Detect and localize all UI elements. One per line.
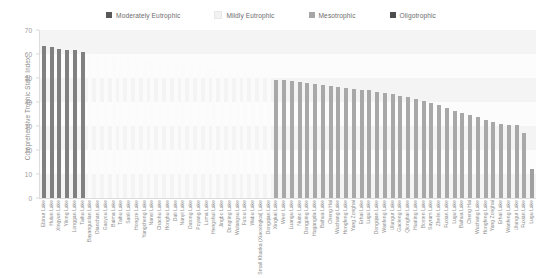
bar-cell[interactable] — [296, 30, 304, 198]
bar-cell[interactable] — [257, 30, 265, 198]
bar-cell[interactable] — [304, 30, 312, 198]
bar-cell[interactable] — [366, 30, 374, 198]
bar-cell[interactable] — [133, 30, 141, 198]
bar[interactable] — [468, 115, 472, 198]
bar[interactable] — [530, 169, 534, 198]
bar-cell[interactable] — [218, 30, 226, 198]
bar-cell[interactable] — [451, 30, 459, 198]
bar[interactable] — [267, 75, 271, 198]
bar-cell[interactable] — [311, 30, 319, 198]
bar[interactable] — [406, 97, 410, 198]
bar[interactable] — [453, 111, 457, 198]
bar-cell[interactable] — [358, 30, 366, 198]
bar-cell[interactable] — [234, 30, 242, 198]
bar-cell[interactable] — [397, 30, 405, 198]
bar[interactable] — [212, 68, 216, 198]
bar-cell[interactable] — [164, 30, 172, 198]
bar-cell[interactable] — [505, 30, 513, 198]
bar[interactable] — [42, 46, 46, 198]
bar[interactable] — [391, 94, 395, 198]
bar[interactable] — [181, 65, 185, 198]
bar[interactable] — [398, 96, 402, 198]
bar-cell[interactable] — [94, 30, 102, 198]
bar-cell[interactable] — [420, 30, 428, 198]
bar-cell[interactable] — [521, 30, 529, 198]
bar[interactable] — [274, 80, 278, 198]
bar-cell[interactable] — [474, 30, 482, 198]
bar-cell[interactable] — [211, 30, 219, 198]
bar[interactable] — [236, 71, 240, 198]
bar[interactable] — [375, 92, 379, 198]
bar-cell[interactable] — [342, 30, 350, 198]
legend-item[interactable]: Moderately Eutrophic — [106, 12, 180, 19]
bar-cell[interactable] — [125, 30, 133, 198]
bar-cell[interactable] — [203, 30, 211, 198]
bar-cell[interactable] — [48, 30, 56, 198]
bar-cell[interactable] — [149, 30, 157, 198]
bar-cell[interactable] — [79, 30, 87, 198]
bar-cell[interactable] — [40, 30, 48, 198]
bar[interactable] — [429, 103, 433, 198]
bar[interactable] — [298, 82, 302, 198]
bar[interactable] — [143, 60, 147, 198]
bar[interactable] — [174, 64, 178, 198]
bar-cell[interactable] — [428, 30, 436, 198]
bar[interactable] — [367, 90, 371, 198]
bar[interactable] — [73, 50, 77, 198]
bar-cell[interactable] — [435, 30, 443, 198]
bar[interactable] — [127, 58, 131, 198]
bar-cell[interactable] — [389, 30, 397, 198]
bar-cell[interactable] — [56, 30, 64, 198]
bar[interactable] — [321, 85, 325, 198]
bar[interactable] — [50, 47, 54, 198]
bar[interactable] — [228, 70, 232, 198]
bar[interactable] — [360, 90, 364, 198]
bar-cell[interactable] — [319, 30, 327, 198]
bar[interactable] — [104, 56, 108, 198]
bar-cell[interactable] — [443, 30, 451, 198]
bar[interactable] — [112, 56, 116, 198]
bar-cell[interactable] — [459, 30, 467, 198]
bar[interactable] — [57, 49, 61, 198]
bar[interactable] — [88, 54, 92, 198]
bar-cell[interactable] — [71, 30, 79, 198]
bar[interactable] — [220, 69, 224, 198]
bar[interactable] — [383, 93, 387, 198]
bar[interactable] — [352, 89, 356, 198]
bar-cell[interactable] — [87, 30, 95, 198]
bar[interactable] — [197, 66, 201, 198]
legend-item[interactable]: Oligotrophic — [390, 12, 436, 19]
bar[interactable] — [445, 108, 449, 198]
bar[interactable] — [135, 59, 139, 198]
bar-cell[interactable] — [327, 30, 335, 198]
bar-cell[interactable] — [242, 30, 250, 198]
bar-cell[interactable] — [226, 30, 234, 198]
bar-cell[interactable] — [490, 30, 498, 198]
bar-cell[interactable] — [110, 30, 118, 198]
bar[interactable] — [460, 113, 464, 198]
bar-cell[interactable] — [373, 30, 381, 198]
legend-item[interactable]: Mesotrophic — [309, 12, 356, 19]
bar[interactable] — [150, 61, 154, 198]
bar[interactable] — [476, 117, 480, 198]
bar-cell[interactable] — [265, 30, 273, 198]
bar-cell[interactable] — [141, 30, 149, 198]
bar[interactable] — [484, 120, 488, 198]
bar[interactable] — [437, 105, 441, 198]
bar-cell[interactable] — [335, 30, 343, 198]
bar[interactable] — [158, 62, 162, 198]
bar[interactable] — [243, 72, 247, 198]
bar[interactable] — [491, 122, 495, 198]
bar-cell[interactable] — [172, 30, 180, 198]
bar[interactable] — [166, 63, 170, 198]
bar-cell[interactable] — [63, 30, 71, 198]
bar-cell[interactable] — [102, 30, 110, 198]
bar-cell[interactable] — [273, 30, 281, 198]
bar[interactable] — [515, 125, 519, 198]
bar[interactable] — [422, 101, 426, 198]
bar[interactable] — [305, 83, 309, 198]
bar[interactable] — [507, 125, 511, 198]
bar[interactable] — [336, 87, 340, 198]
bar-cell[interactable] — [288, 30, 296, 198]
bar-cell[interactable] — [404, 30, 412, 198]
